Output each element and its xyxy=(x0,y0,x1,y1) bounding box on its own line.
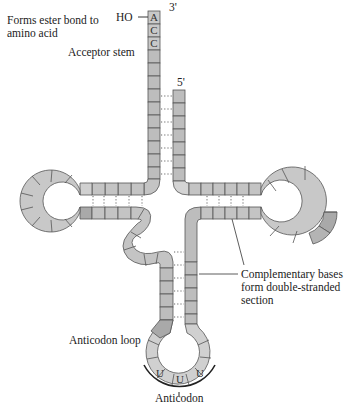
hydroxyl-label: HO xyxy=(116,11,133,24)
t-arm-hydrogen-bonds xyxy=(207,196,243,206)
d-arm-hydrogen-bonds xyxy=(93,196,142,206)
anticodon-base-3: U xyxy=(196,367,204,379)
anticodon-stem-right-strand xyxy=(185,262,197,324)
complementary-bases-label-line3: section xyxy=(241,294,274,307)
acceptor-stem-5prime-strand xyxy=(173,90,185,181)
ester-bond-label-line2: amino acid xyxy=(7,27,58,40)
anticodon-stem-left-strand xyxy=(160,268,173,320)
anticodon-loop-label: Anticodon loop xyxy=(69,334,141,347)
complementary-leader-line-top xyxy=(232,219,244,265)
anticodon-label: Anticodon xyxy=(155,392,204,405)
d-arm-top-strand xyxy=(80,183,144,195)
complementary-bases-label-line2: form double-stranded xyxy=(241,281,340,294)
acceptor-stem-hydrogen-bonds xyxy=(161,96,172,174)
t-loop xyxy=(261,166,337,244)
ester-bond-label-line1: Forms ester bond to xyxy=(7,14,99,27)
complementary-bases-label-line1: Complementary bases xyxy=(241,268,343,281)
anticodon-base-2: U xyxy=(176,373,184,385)
anticodon-base-1: U xyxy=(156,367,164,379)
acceptor-to-t-arm-bend xyxy=(173,181,189,195)
t-arm-bottom-strand xyxy=(185,207,261,262)
base-c-2: C xyxy=(150,37,157,49)
t-arm-top-strand xyxy=(189,183,261,195)
base-a: A xyxy=(150,11,158,23)
trna-diagram: A C C xyxy=(0,0,360,413)
d-arm-bottom-strand xyxy=(80,207,131,219)
base-c-1: C xyxy=(150,24,157,36)
acceptor-stem-label: Acceptor stem xyxy=(68,46,135,59)
acceptor-to-d-arm-bend xyxy=(144,179,160,195)
d-loop xyxy=(20,170,80,232)
anticodon-stem-hydrogen-bonds xyxy=(174,252,184,317)
three-prime-label: 3' xyxy=(169,1,177,14)
five-prime-label: 5' xyxy=(177,76,185,89)
